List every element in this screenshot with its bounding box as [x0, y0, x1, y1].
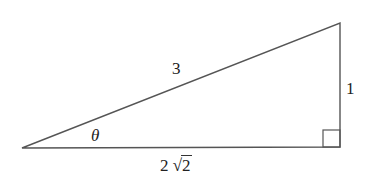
hypotenuse-label: 3	[172, 60, 181, 77]
opposite-side-label: 1	[346, 80, 355, 97]
radicand: 2	[181, 155, 192, 174]
adjacent-side-label: 2 √2	[160, 155, 192, 174]
square-root-expression: √2	[173, 155, 192, 174]
adjacent-coefficient: 2	[160, 156, 169, 175]
right-angle-marker	[323, 130, 340, 147]
triangle-diagram	[0, 0, 380, 181]
right-triangle	[22, 23, 340, 148]
angle-theta-label: θ	[91, 127, 99, 144]
